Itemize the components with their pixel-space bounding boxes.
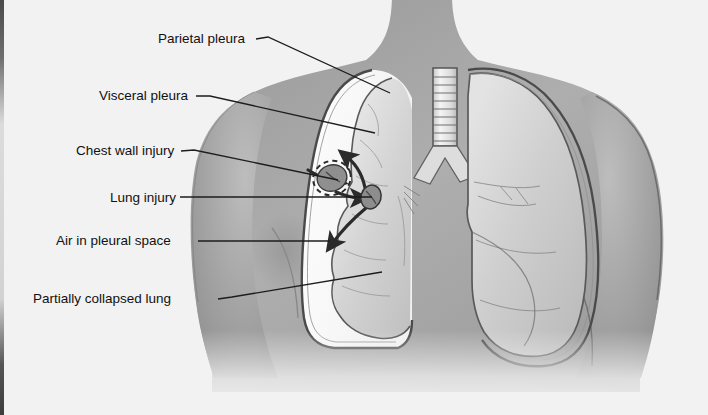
label-lung-injury: Lung injury	[110, 190, 176, 205]
bottom-fade	[180, 330, 660, 415]
label-parietal-pleura: Parietal pleura	[158, 31, 246, 46]
pneumothorax-illustration: Parietal pleuraVisceral pleuraChest wall…	[0, 0, 708, 415]
label-air-in-pleural-space: Air in pleural space	[56, 233, 171, 248]
illustration-canvas: Parietal pleuraVisceral pleuraChest wall…	[0, 0, 708, 415]
label-partially-collapsed-lung: Partially collapsed lung	[33, 291, 171, 306]
label-visceral-pleura: Visceral pleura	[99, 88, 189, 103]
left-edge-artifact	[0, 0, 4, 415]
trachea	[433, 68, 457, 146]
label-chest-wall-injury: Chest wall injury	[76, 143, 175, 158]
